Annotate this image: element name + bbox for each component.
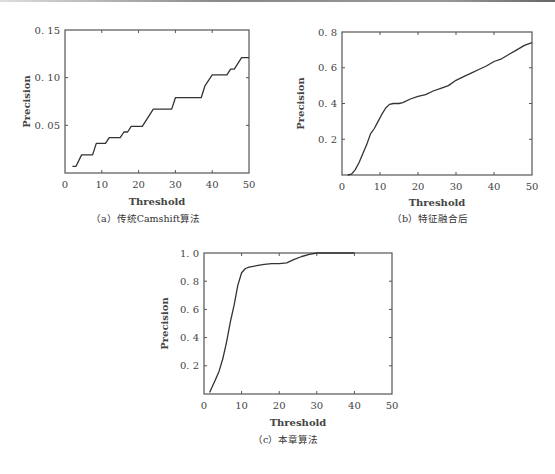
- y-axis-label: Precision: [295, 77, 306, 130]
- x-axis-label: Threshold: [409, 197, 466, 208]
- precision-curve: [348, 43, 532, 175]
- plot-frame: [342, 32, 532, 175]
- precision-curve: [210, 253, 355, 393]
- x-tick-label: 20: [273, 400, 286, 411]
- y-tick-label: 0. 8: [180, 276, 199, 287]
- caption-c: （c）本章算法: [253, 432, 318, 446]
- x-tick-label: 40: [488, 181, 501, 192]
- x-tick-label: 30: [310, 400, 323, 411]
- x-tick-label: 10: [374, 181, 387, 192]
- x-tick-label: 0: [339, 181, 345, 192]
- x-axis-label: Threshold: [270, 417, 327, 428]
- x-tick-label: 10: [95, 179, 108, 190]
- y-tick-label: 1. 0: [180, 248, 199, 259]
- y-tick-label: 0. 2: [318, 134, 337, 145]
- x-tick-label: 30: [450, 181, 463, 192]
- y-tick-label: 0. 05: [35, 120, 60, 131]
- plot-frame: [65, 30, 249, 173]
- y-tick-label: 0. 2: [180, 360, 199, 371]
- chart-b: 010203040500. 20. 40. 60. 8ThresholdPrec…: [295, 27, 538, 209]
- x-tick-label: 50: [526, 181, 539, 192]
- precision-curve: [72, 58, 249, 167]
- y-axis-label: Precision: [159, 297, 170, 350]
- figure-canvas: 010203040500. 050. 100. 15ThresholdPreci…: [0, 0, 555, 474]
- chart-a: 010203040500. 050. 100. 15ThresholdPreci…: [21, 25, 255, 208]
- caption-a: （a）传统Camshift算法: [91, 211, 200, 225]
- caption-b: （b）特征融合后: [392, 211, 468, 225]
- x-tick-label: 10: [235, 400, 248, 411]
- x-tick-label: 50: [243, 179, 256, 190]
- y-axis-label: Precision: [21, 75, 32, 128]
- y-tick-label: 0. 15: [35, 25, 60, 36]
- x-tick-label: 20: [132, 179, 145, 190]
- x-tick-label: 20: [412, 181, 425, 192]
- x-tick-label: 40: [206, 179, 219, 190]
- x-axis-label: Threshold: [129, 196, 186, 207]
- chart-c: 010203040500. 20. 40. 60. 81. 0Threshold…: [159, 248, 398, 429]
- x-tick-label: 50: [386, 400, 399, 411]
- y-tick-label: 0. 4: [318, 98, 337, 109]
- x-tick-label: 40: [348, 400, 361, 411]
- x-tick-label: 0: [201, 400, 207, 411]
- y-tick-label: 0. 6: [180, 304, 199, 315]
- y-tick-label: 0. 10: [35, 72, 60, 83]
- y-tick-label: 0. 4: [180, 332, 199, 343]
- x-tick-label: 30: [169, 179, 182, 190]
- plot-frame: [204, 253, 392, 394]
- x-tick-label: 0: [62, 179, 68, 190]
- y-tick-label: 0. 8: [318, 27, 337, 38]
- y-tick-label: 0. 6: [318, 62, 337, 73]
